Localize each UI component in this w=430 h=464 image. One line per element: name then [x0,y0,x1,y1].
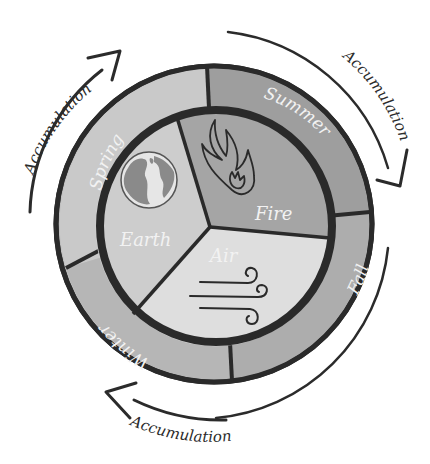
accumulation-label-top-right: Accumulation [338,45,414,143]
divider-spring-summer [207,66,209,108]
globe-icon [121,152,177,208]
element-label-air: Air [208,245,239,266]
element-label-earth: Earth [119,229,171,250]
element-label-fire: Fire [254,203,293,224]
arrow-bottom-head [106,383,136,418]
seasons-elements-diagram: Spring Summer Fall Winter Earth Fire Air… [0,0,430,464]
divider-fall-winter [230,342,232,381]
arrow-top-right-head [377,150,407,186]
